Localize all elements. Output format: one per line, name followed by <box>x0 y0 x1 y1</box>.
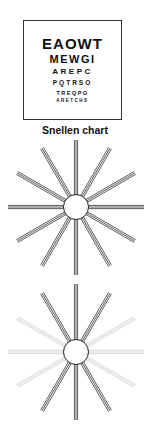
spoke-line <box>85 212 135 241</box>
spoke-line <box>80 147 109 197</box>
spoke-line <box>18 317 68 346</box>
spoke-line <box>42 361 71 411</box>
snellen-row-2: MEWGI <box>50 54 96 65</box>
spoke-line <box>41 294 70 344</box>
spoke-line <box>18 172 68 201</box>
spoke-line <box>42 293 71 343</box>
spoke-line <box>42 216 71 266</box>
spoke-line <box>85 318 135 347</box>
spoke-line <box>84 213 134 242</box>
spoke-line <box>81 148 110 198</box>
spoke-line <box>43 292 72 342</box>
spoke-0deg <box>86 350 144 353</box>
center-circle <box>64 340 89 365</box>
snellen-chart-caption: Snellen chart <box>0 124 150 136</box>
snellen-row-4: PQTRSO <box>53 80 92 87</box>
spoke-0deg <box>86 205 144 208</box>
spoke-line <box>16 356 66 385</box>
spoke-line <box>84 358 134 387</box>
spoke-line <box>85 319 135 348</box>
spoke-line <box>85 173 135 202</box>
spoke-270deg <box>74 217 77 275</box>
spoke-270deg <box>74 362 77 420</box>
spoke-line <box>41 215 70 265</box>
spoke-line <box>42 148 71 198</box>
spoke-line <box>18 358 68 387</box>
center-circle <box>64 195 89 220</box>
spoke-line <box>80 292 109 342</box>
spoke-line <box>81 293 110 343</box>
spoke-line <box>17 173 67 202</box>
spoke-line <box>82 360 111 410</box>
spoke-line <box>16 319 66 348</box>
spoke-line <box>18 213 68 242</box>
spoke-line <box>82 149 111 199</box>
spoke-line <box>80 216 109 266</box>
starburst-normal <box>0 140 157 280</box>
spoke-line <box>81 361 110 411</box>
spoke-180deg <box>8 205 66 208</box>
spoke-line <box>17 357 67 386</box>
spoke-line <box>85 357 135 386</box>
spoke-line <box>43 147 72 197</box>
spoke-line <box>16 174 66 203</box>
spoke-90deg <box>74 140 77 197</box>
spoke-line <box>84 317 134 346</box>
spoke-line <box>84 172 134 201</box>
spoke-line <box>43 216 72 266</box>
spoke-180deg <box>8 350 66 353</box>
spoke-line <box>85 174 135 203</box>
spoke-line <box>85 211 135 240</box>
spoke-line <box>41 360 70 410</box>
spoke-line <box>82 294 111 344</box>
spoke-line <box>81 216 110 266</box>
snellen-row-3: AREPC <box>52 68 93 76</box>
spoke-90deg <box>74 284 77 342</box>
spoke-line <box>80 361 109 411</box>
spoke-line <box>41 149 70 199</box>
starburst-astigmatic <box>0 282 157 432</box>
spoke-line <box>82 215 111 265</box>
spoke-line <box>43 361 72 411</box>
snellen-row-5: TREQPO <box>56 91 88 97</box>
spoke-line <box>17 318 67 347</box>
snellen-row-1: EAOWT <box>42 36 103 51</box>
spoke-line <box>85 356 135 385</box>
spoke-line <box>16 211 66 240</box>
snellen-chart: EAOWT MEWGI AREPC PQTRSO TREQPO ARETCHS <box>23 20 122 120</box>
snellen-row-6: ARETCHS <box>56 99 88 104</box>
spoke-line <box>17 212 67 241</box>
